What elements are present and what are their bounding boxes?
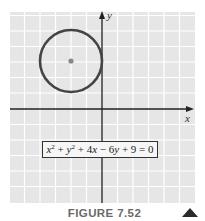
graph-plot [0, 0, 205, 205]
eq-term-4: + 4 [75, 143, 92, 155]
figure-caption: FIGURE 7.52 [0, 205, 205, 221]
equation-box: x2 + y2 + 4x − 6y + 9 = 0 [42, 141, 158, 158]
figure-caption-text: FIGURE 7.52 [68, 207, 141, 219]
eq-term-6: − 6 [97, 143, 114, 155]
y-axis-label: y [107, 9, 112, 21]
x-axis-label: x [185, 112, 190, 124]
eq-tail: + 9 = 0 [119, 143, 153, 155]
triangle-up-icon[interactable] [182, 208, 198, 217]
circle-center-dot [68, 58, 73, 63]
eq-plus: + [55, 143, 67, 155]
